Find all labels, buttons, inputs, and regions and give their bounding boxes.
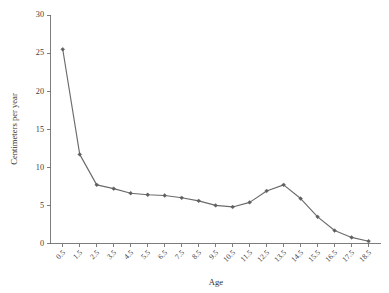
- data-point-marker: [231, 205, 235, 209]
- data-point-marker: [214, 204, 218, 208]
- y-tick-label: 25: [36, 48, 44, 57]
- x-tick-label: 13.5: [272, 248, 288, 264]
- x-tick-label: 16.5: [323, 248, 339, 264]
- data-point-marker: [163, 194, 167, 198]
- x-tick-label: 11.5: [238, 248, 254, 264]
- x-tick-label: 7.5: [173, 248, 186, 261]
- data-point-marker: [367, 239, 371, 243]
- x-tick-label: 14.5: [289, 248, 305, 264]
- x-tick-label: 9.5: [207, 248, 220, 261]
- y-axis-title: Centimeters per year: [9, 93, 19, 165]
- x-tick-label: 1.5: [71, 248, 84, 261]
- x-tick-label: 8.5: [190, 248, 203, 261]
- x-tick-label: 2.5: [88, 248, 101, 261]
- y-tick-label: 0: [40, 239, 44, 248]
- x-tick-marks: [63, 244, 369, 247]
- y-tick-label: 20: [36, 87, 44, 96]
- x-tick-label: 0.5: [54, 248, 67, 261]
- chart-canvas: 051015202530 0.51.52.53.54.55.56.57.58.5…: [0, 0, 389, 293]
- y-tick-label: 5: [40, 201, 44, 210]
- data-point-marker: [129, 191, 133, 195]
- y-tick-label: 30: [36, 10, 44, 19]
- growth-velocity-chart-figure: 051015202530 0.51.52.53.54.55.56.57.58.5…: [0, 0, 389, 293]
- x-tick-label: 17.5: [340, 248, 356, 264]
- data-point-marker: [146, 193, 150, 197]
- data-point-marker: [61, 47, 65, 51]
- x-tick-label: 10.5: [221, 248, 237, 264]
- x-tick-labels: 0.51.52.53.54.55.56.57.58.59.510.511.512…: [54, 248, 373, 264]
- x-tick-label: 4.5: [122, 248, 135, 261]
- x-tick-label: 5.5: [139, 248, 152, 261]
- data-series-line: [63, 49, 369, 241]
- y-tick-label: 10: [36, 163, 44, 172]
- data-point-marker: [112, 187, 116, 191]
- data-point-marker: [180, 196, 184, 200]
- y-tick-labels: 051015202530: [36, 10, 44, 248]
- x-tick-label: 6.5: [156, 248, 169, 261]
- y-tick-label: 15: [36, 125, 44, 134]
- data-series-markers: [61, 47, 371, 243]
- x-tick-label: 15.5: [306, 248, 322, 264]
- data-point-marker: [350, 236, 354, 240]
- x-tick-label: 18.5: [357, 248, 373, 264]
- x-tick-label: 12.5: [255, 248, 271, 264]
- y-tick-marks: [47, 15, 50, 244]
- x-tick-label: 3.5: [105, 248, 118, 261]
- data-point-marker: [197, 199, 201, 203]
- x-axis-title: Age: [209, 277, 224, 287]
